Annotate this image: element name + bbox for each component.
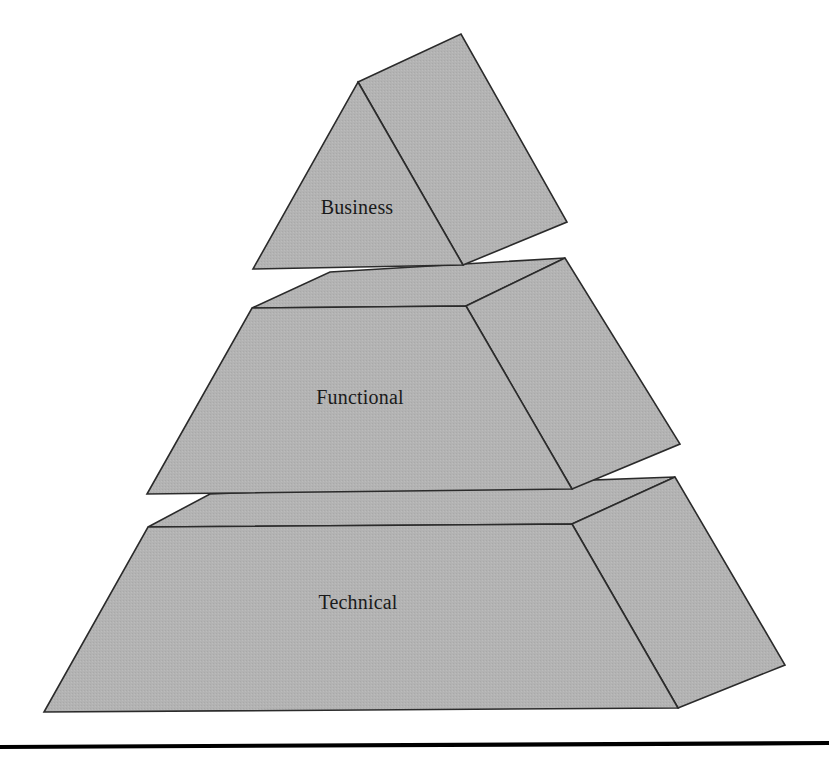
pyramid-tier-middle[interactable]: Functional xyxy=(147,258,680,494)
tier-middle-label: Functional xyxy=(316,386,404,408)
figure-canvas: Technical Functional Business xyxy=(0,0,829,765)
pyramid-tier-top[interactable]: Business xyxy=(253,34,567,269)
pyramid-tier-bottom[interactable]: Technical xyxy=(44,477,785,712)
page-divider-rule xyxy=(0,743,829,747)
tier-bottom-front-face xyxy=(44,524,678,712)
tier-top-label: Business xyxy=(321,196,394,218)
tier-bottom-label: Technical xyxy=(318,591,397,613)
pyramid-diagram: Technical Functional Business xyxy=(0,0,829,765)
